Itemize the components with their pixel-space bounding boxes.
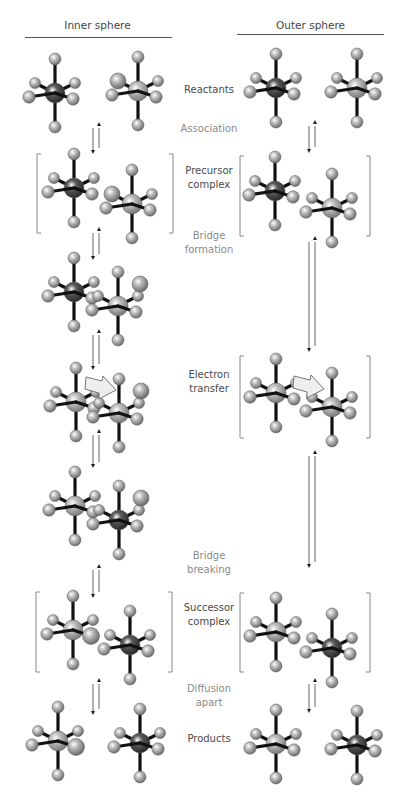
- bridging-ligand: [132, 276, 148, 292]
- ligand-atom: [288, 632, 300, 644]
- ligand-atom: [269, 151, 281, 163]
- ligand-atom: [347, 633, 358, 644]
- ligand-atom: [270, 353, 282, 365]
- ligand-atom: [288, 393, 300, 405]
- octahedral-complex-outer-et: [300, 367, 358, 447]
- ligand-atom: [70, 430, 82, 442]
- equilibrium-arrow-icon: [307, 678, 317, 713]
- label-bridge-breaking: Bridgebreaking: [164, 549, 254, 577]
- octahedral-complex-inner-successor: [41, 590, 100, 670]
- ligand-atom: [152, 743, 164, 755]
- octahedral-complex-inner-post: [43, 466, 101, 546]
- label-reactants: Reactants: [164, 83, 254, 97]
- ligand-atom: [26, 739, 38, 751]
- label-diffusion-apart: Diffusionapart: [164, 682, 254, 710]
- octahedral-complex-inner-reactants: [106, 51, 164, 131]
- ligand-atom: [300, 206, 312, 218]
- ligand-atom: [270, 660, 282, 672]
- equilibrium-arrow-icon: [91, 429, 101, 468]
- ligand-atom: [145, 630, 156, 641]
- ligand-atom: [332, 73, 343, 84]
- label-successor: Successorcomplex: [164, 601, 254, 629]
- ligand-atom: [42, 186, 54, 198]
- ligand-atom: [300, 646, 312, 658]
- ligand-atom: [291, 73, 302, 84]
- ligand-atom: [112, 266, 124, 278]
- ligand-atom: [344, 208, 356, 220]
- ligand-atom: [93, 291, 104, 302]
- ligand-atom: [68, 320, 80, 332]
- ligand-atom: [105, 630, 116, 641]
- label-bridge-formation: Bridgeformation: [164, 229, 254, 257]
- ligand-atom: [270, 772, 282, 784]
- equilibrium-arrow-icon: [91, 329, 101, 370]
- ligand-atom: [344, 648, 356, 660]
- ligand-atom: [153, 76, 164, 87]
- ligand-atom: [115, 728, 126, 739]
- ligand-atom: [51, 387, 62, 398]
- ligand-atom: [113, 373, 125, 385]
- ligand-atom: [291, 617, 302, 628]
- label-association: Association: [164, 122, 254, 136]
- ligand-atom: [68, 252, 80, 264]
- octahedral-complex-outer-reactants: [325, 48, 383, 128]
- octahedral-complex-inner-bridge: [42, 252, 100, 332]
- ligand-atom: [67, 590, 79, 602]
- ligand-atom: [351, 705, 363, 717]
- ligand-atom: [124, 605, 136, 617]
- ligand-atom: [351, 773, 363, 785]
- ligand-atom: [347, 392, 358, 403]
- ligand-atom: [131, 520, 143, 532]
- bridging-ligand: [133, 383, 149, 399]
- ligand-atom: [144, 204, 156, 216]
- ligand-atom: [126, 232, 138, 244]
- octahedral-complex-outer-successor: [300, 608, 358, 688]
- ligand-atom: [70, 78, 81, 89]
- ligand-atom: [372, 730, 383, 741]
- label-precursor: Precursorcomplex: [164, 164, 254, 192]
- ligand-atom: [307, 193, 318, 204]
- octahedral-complex-inner-successor: [98, 605, 156, 685]
- electron-transfer-mechanism-diagram: Inner sphere Outer sphere ReactantsAssoc…: [0, 0, 412, 802]
- ligand-atom: [369, 88, 381, 100]
- ligand-atom: [287, 191, 299, 203]
- ligand-atom: [270, 421, 282, 433]
- ligand-atom: [50, 491, 61, 502]
- ligand-atom: [344, 407, 356, 419]
- ligand-atom: [326, 608, 338, 620]
- equilibrium-arrow-icon: [307, 120, 317, 153]
- ligand-atom: [41, 628, 53, 640]
- ligand-atom: [86, 188, 98, 200]
- octahedral-complex-inner-et: [44, 362, 102, 442]
- ligand-atom: [131, 413, 143, 425]
- ligand-atom: [134, 505, 145, 516]
- octahedral-complex-inner-products: [26, 701, 85, 781]
- bridging-ligand: [83, 628, 100, 645]
- ligand-atom: [134, 703, 146, 715]
- equilibrium-arrow-icon: [91, 564, 101, 598]
- ligand-atom: [89, 173, 100, 184]
- ligand-atom: [270, 704, 282, 716]
- equilibrium-arrow-icon: [91, 227, 101, 260]
- ligand-atom: [326, 367, 338, 379]
- ligand-atom: [132, 119, 144, 131]
- ligand-atom: [288, 88, 300, 100]
- ligand-atom: [43, 504, 55, 516]
- ligand-atom: [134, 398, 145, 409]
- octahedral-complex-outer-precursor: [300, 168, 358, 248]
- ligand-atom: [269, 219, 281, 231]
- ligand-atom: [69, 466, 81, 478]
- ligand-atom: [67, 93, 79, 105]
- ligand-atom: [70, 362, 82, 374]
- ligand-atom: [244, 630, 256, 642]
- ligand-atom: [106, 89, 118, 101]
- octahedral-complex-inner-products: [108, 703, 166, 783]
- ligand-atom: [42, 290, 54, 302]
- ligand-atom: [113, 441, 125, 453]
- ligand-atom: [300, 405, 312, 417]
- ligand-atom: [142, 645, 154, 657]
- ligand-atom: [326, 676, 338, 688]
- ligand-atom: [49, 173, 60, 184]
- ligand-atom: [134, 771, 146, 783]
- ligand-atom: [326, 168, 338, 180]
